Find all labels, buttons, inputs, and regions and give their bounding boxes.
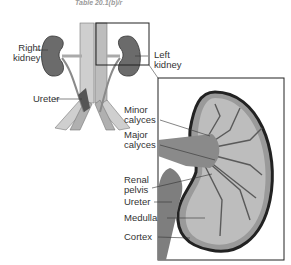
right-kidney-shape bbox=[42, 36, 64, 76]
label-medulla: Medulla bbox=[124, 213, 157, 223]
label-renal-pelvis: Renal pelvis bbox=[124, 175, 149, 195]
label-left-kidney: Left kidney bbox=[154, 50, 181, 70]
label-right-kidney: Right kidney bbox=[13, 43, 40, 63]
label-ureter-overview: Ureter bbox=[33, 94, 59, 104]
label-cortex: Cortex bbox=[124, 232, 152, 242]
label-minor-calyces: Minor calyces bbox=[124, 105, 156, 125]
label-major-calyces: Major calyces bbox=[124, 130, 156, 150]
label-ureter-detail: Ureter bbox=[124, 197, 150, 207]
great-vessels bbox=[55, 23, 130, 130]
